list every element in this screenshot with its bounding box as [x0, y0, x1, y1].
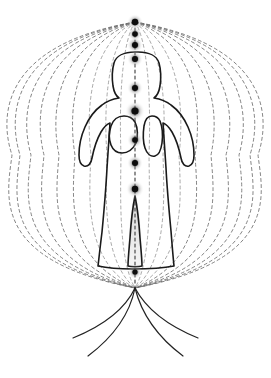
- node-10-core: [132, 269, 137, 274]
- node-6-core: [131, 107, 138, 114]
- node-9-core: [132, 186, 138, 192]
- node-5-core: [132, 85, 138, 91]
- node-8-core: [132, 160, 138, 166]
- node-2-core: [132, 31, 138, 37]
- diagram-canvas: [0, 0, 271, 378]
- node-1-core: [132, 19, 138, 25]
- energy-field-diagram: [0, 0, 271, 378]
- node-4-core: [132, 56, 138, 62]
- node-7-core: [132, 137, 138, 143]
- node-3-core: [132, 42, 138, 48]
